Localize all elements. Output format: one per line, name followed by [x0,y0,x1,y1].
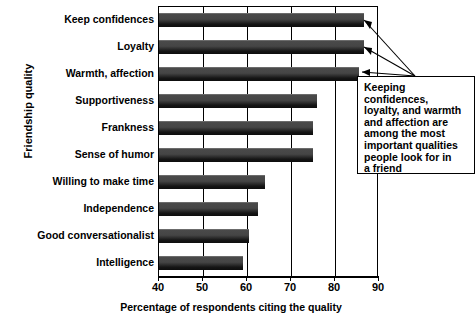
x-tick-label: 60 [231,281,261,293]
category-label: Good conversationalist [14,230,154,241]
category-label: Frankness [14,122,154,133]
category-label: Independence [14,203,154,214]
callout-line: important qualities [364,140,470,152]
x-tick-label: 50 [187,281,217,293]
x-tick-label: 90 [363,281,393,293]
category-label: Keep confidences [14,14,154,25]
category-label: Intelligence [14,257,154,268]
bar [159,67,359,81]
bar [159,148,313,162]
category-label: Warmth, affection [14,68,154,79]
bar [159,175,265,189]
bar [159,229,249,243]
x-tick-label: 40 [143,281,173,293]
bar [159,40,364,54]
x-tick-label: 70 [275,281,305,293]
category-label: Supportiveness [14,95,154,106]
category-label: Sense of humor [14,149,154,160]
callout-text: Keepingconfidences,loyalty, and warmthan… [364,82,470,175]
x-tick-label: 80 [319,281,349,293]
callout-line: Keeping [364,82,470,94]
category-label-list: Keep confidencesLoyaltyWarmth, affection… [14,6,154,276]
x-axis-line [158,276,379,278]
callout-box: Keepingconfidences,loyalty, and warmthan… [357,76,475,174]
bar [159,121,313,135]
bar [159,13,364,27]
bar [159,202,258,216]
x-axis-title: Percentage of respondents citing the qua… [0,301,462,313]
plot-top-border [159,6,378,7]
category-label: Loyalty [14,41,154,52]
callout-line: a friend [364,163,470,175]
bar [159,94,317,108]
plot-area [158,6,378,276]
category-label: Willing to make time [14,176,154,187]
bar [159,256,243,270]
